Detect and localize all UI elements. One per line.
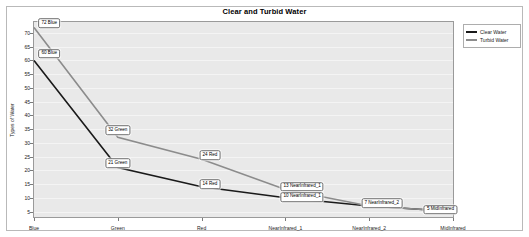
x-axis: BlueGreenRedNearInfrared_1NearInfrared_2… bbox=[33, 218, 454, 237]
legend-item[interactable]: Clear Water bbox=[466, 28, 517, 36]
y-axis: 510152025303540455055606570 bbox=[0, 21, 33, 218]
data-point-label: 5 MidInfrared bbox=[424, 205, 457, 215]
x-axis-tick-mark bbox=[453, 218, 454, 221]
x-axis-tick-label: Red bbox=[197, 225, 206, 231]
x-axis-tick-mark bbox=[118, 218, 119, 221]
x-axis-tick-label: NearInfrared_1 bbox=[269, 225, 303, 231]
data-point-label: 13 NearInfrared_1 bbox=[281, 182, 324, 192]
x-axis-tick-mark bbox=[285, 218, 286, 221]
x-axis-tick-label: Green bbox=[111, 225, 125, 231]
data-point-label: 14 Red bbox=[200, 179, 221, 189]
chart-container: Clear and Turbid Water Types of Water 51… bbox=[0, 0, 529, 237]
data-point-label: 10 NearInfrared_1 bbox=[281, 192, 324, 202]
x-axis-tick-label: MidInfrared bbox=[440, 225, 465, 231]
chart-legend: Clear WaterTurbid Water bbox=[463, 24, 521, 48]
series-line-turbid-water bbox=[34, 27, 453, 211]
data-point-label: 60 Blue bbox=[38, 49, 60, 59]
legend-color-swatch bbox=[466, 31, 477, 33]
data-point-label: 24 Red bbox=[200, 150, 221, 160]
legend-item[interactable]: Turbid Water bbox=[466, 36, 517, 44]
data-point-label: 72 Blue bbox=[38, 19, 60, 29]
series-lines bbox=[34, 22, 453, 217]
legend-color-swatch bbox=[466, 39, 477, 41]
data-point-label: 7 NearInfrared_2 bbox=[361, 198, 402, 208]
chart-title: Clear and Turbid Water bbox=[0, 7, 529, 16]
x-axis-tick-mark bbox=[202, 218, 203, 221]
legend-label: Turbid Water bbox=[480, 37, 509, 43]
x-axis-tick-label: NearInfrared_2 bbox=[352, 225, 386, 231]
data-point-label: 32 Green bbox=[105, 126, 130, 136]
plot-area: 72 Blue60 Blue32 Green21 Green24 Red14 R… bbox=[33, 21, 454, 218]
legend-label: Clear Water bbox=[480, 29, 507, 35]
x-axis-tick-mark bbox=[34, 218, 35, 221]
data-point-label: 21 Green bbox=[105, 159, 130, 169]
x-axis-tick-label: Blue bbox=[29, 225, 39, 231]
x-axis-tick-mark bbox=[369, 218, 370, 221]
series-line-clear-water bbox=[34, 60, 453, 211]
